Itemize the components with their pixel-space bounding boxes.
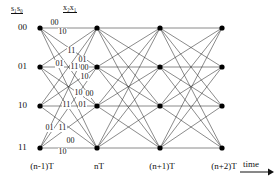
edge-label: 10 <box>58 28 67 36</box>
trellis-node <box>157 25 162 30</box>
trellis-node <box>157 64 162 69</box>
edge-label: 11 <box>58 124 67 132</box>
stage-label-t3: (n+2)T <box>204 162 244 171</box>
stage-label-t1: nT <box>79 162 119 171</box>
trellis-diagram <box>0 0 275 181</box>
edge-label: 10 <box>80 73 89 81</box>
trellis-node <box>94 145 99 150</box>
state-label-00: 00 <box>18 23 27 32</box>
time-axis-arrow <box>240 169 274 176</box>
time-axis-text: time <box>243 159 259 169</box>
trellis-node <box>94 64 99 69</box>
edge-label: 00 <box>80 64 89 72</box>
edge-label: 10 <box>58 148 67 156</box>
trellis-node <box>94 103 99 108</box>
stage-label-t0: (n-1)T <box>22 162 62 171</box>
state-label-10: 10 <box>18 101 27 110</box>
state-label-01: 01 <box>18 62 27 71</box>
trellis-node <box>37 64 42 69</box>
edge-label: 00 <box>66 137 75 145</box>
branch-header-label: x₂x₁ <box>63 4 77 13</box>
edge-label: 01 <box>55 60 64 68</box>
trellis-node <box>219 103 224 108</box>
trellis-node <box>37 25 42 30</box>
trellis-node <box>219 145 224 150</box>
trellis-node <box>37 145 42 150</box>
edge-label: 11 <box>62 101 71 109</box>
stage-label-t2: (n+1)T <box>142 162 182 171</box>
edge-label: 01 <box>45 124 54 132</box>
edge-label: 00 <box>85 90 94 98</box>
trellis-node <box>219 64 224 69</box>
edge-label: 00 <box>50 19 59 27</box>
time-axis-label: time <box>243 160 259 169</box>
state-header-label: s₁s₀ <box>11 5 23 14</box>
edge-label: 11 <box>67 47 76 55</box>
edge-label: 10 <box>74 89 83 97</box>
trellis-node <box>157 103 162 108</box>
edge-label: 01 <box>78 101 87 109</box>
state-label-11: 11 <box>18 143 27 152</box>
trellis-node <box>94 25 99 30</box>
trellis-node <box>37 103 42 108</box>
trellis-node <box>157 145 162 150</box>
branch-header-text: x₂x₁ <box>63 3 77 12</box>
state-header-text: s₁s₀ <box>11 4 23 13</box>
trellis-node <box>219 25 224 30</box>
edge-label: 11 <box>70 63 79 71</box>
